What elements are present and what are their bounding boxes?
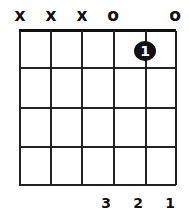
fret-line	[19, 107, 176, 109]
finger-label: 3	[98, 195, 114, 211]
finger-label: 1	[162, 195, 178, 211]
string-marker-4: x	[72, 5, 92, 25]
fret-line	[19, 67, 176, 69]
fret-line	[19, 146, 176, 148]
string-marker-5: x	[41, 5, 61, 25]
finger-label: 2	[130, 195, 146, 211]
fret-line	[19, 184, 176, 186]
finger-dot: 1	[134, 41, 156, 61]
nut	[19, 29, 176, 32]
string-marker-6: x	[10, 5, 30, 25]
string-marker-3: o	[103, 5, 123, 25]
string-marker-1: o	[165, 5, 185, 25]
